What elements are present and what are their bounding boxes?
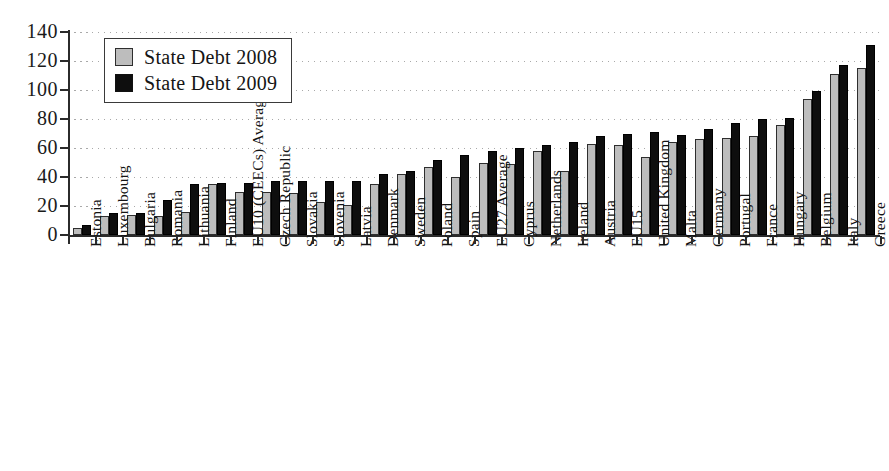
x-tick-mark [285,236,287,244]
y-tick-label-wrap: 60 [0,137,58,157]
x-tick-label: EU10 (CEECs) Average [250,93,266,247]
x-tick-mark [339,236,341,244]
x-tick-mark [203,236,205,244]
x-tick-mark [799,236,801,244]
x-tick-mark [257,236,259,244]
x-tick-mark [745,236,747,244]
y-tick-label: 60 [14,137,58,157]
x-tick-mark [528,236,530,244]
x-tick-mark [474,236,476,244]
bar-2008 [73,228,82,235]
x-tick-mark [312,236,314,244]
x-tick-mark [68,236,70,244]
x-tick-mark [366,236,368,244]
x-tick-mark [149,236,151,244]
legend-swatch-2008-icon [115,48,133,66]
x-tick-label: Luxembourg [115,165,131,247]
y-tick-label-wrap: 20 [0,195,58,215]
x-tick-mark [420,236,422,244]
x-tick-mark [555,236,557,244]
legend-swatch-2009-icon [115,74,133,92]
x-tick-label: United Kingdom [656,140,672,247]
y-tick-label-wrap: 140 [0,21,58,41]
legend-entry-2009: State Debt 2009 [115,70,277,96]
bar-2009 [839,65,848,235]
y-tick-label: 140 [14,21,58,41]
x-tick-mark [826,236,828,244]
x-tick-mark [393,236,395,244]
x-tick-mark [772,236,774,244]
x-tick-mark [691,236,693,244]
y-tick-label-wrap: 40 [0,166,58,186]
y-tick-label: 100 [14,79,58,99]
x-tick-mark [609,236,611,244]
bar-chart: 140120100806040200 EstoniaLuxembourgBulg… [0,0,889,471]
x-tick-label: EU27 Average [494,154,510,247]
y-tick-label: 0 [14,224,58,244]
bar-2008 [857,68,866,235]
y-tick-label: 20 [14,195,58,215]
legend-label-2009: State Debt 2009 [144,73,277,93]
x-tick-mark [176,236,178,244]
x-tick-mark [880,236,882,244]
y-tick-label: 120 [14,50,58,70]
x-tick-mark [636,236,638,244]
x-tick-mark [122,236,124,244]
y-tick-label-wrap: 80 [0,108,58,128]
legend-label-2008: State Debt 2008 [144,47,277,67]
x-tick-label: Czech Republic [277,146,293,247]
y-tick-label: 40 [14,166,58,186]
x-tick-mark [663,236,665,244]
x-tick-mark [230,236,232,244]
chart-legend: State Debt 2008 State Debt 2009 [104,38,292,103]
y-tick-label-wrap: 100 [0,79,58,99]
y-tick-label-wrap: 0 [0,224,58,244]
x-tick-mark [501,236,503,244]
legend-entry-2008: State Debt 2008 [115,44,277,70]
x-tick-mark [853,236,855,244]
x-tick-mark [582,236,584,244]
x-tick-mark [95,236,97,244]
y-tick-label-wrap: 120 [0,50,58,70]
y-tick-label: 80 [14,108,58,128]
x-tick-mark [447,236,449,244]
x-tick-mark [718,236,720,244]
